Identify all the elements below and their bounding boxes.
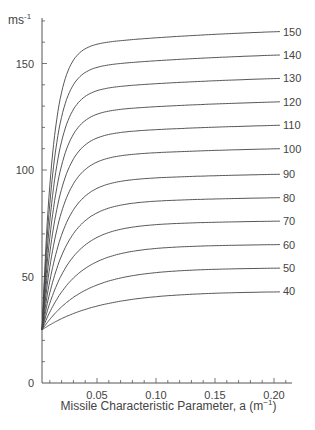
curve-label-60: 60 [283, 239, 295, 251]
curve-label-120: 120 [283, 96, 301, 108]
y-tick-label: 150 [16, 58, 34, 70]
curve-50 [42, 268, 280, 330]
curve-label-40: 40 [283, 285, 295, 297]
x-axis-title: Missile Characteristic Parameter, a (m−1… [0, 398, 315, 413]
curve-80 [42, 198, 280, 330]
curve-label-110: 110 [283, 119, 301, 131]
curve-label-80: 80 [283, 192, 295, 204]
curve-label-50: 50 [283, 262, 295, 274]
curve-120 [42, 102, 280, 330]
curve-label-70: 70 [283, 215, 295, 227]
curve-60 [42, 245, 280, 330]
curve-label-100: 100 [283, 143, 301, 155]
y-tick-label: 100 [16, 164, 34, 176]
curve-150 [42, 32, 280, 330]
velocity-chart: 0501001500.050.100.150.20 15014013012011… [0, 0, 315, 430]
curve-label-130: 130 [283, 72, 301, 84]
y-tick-label: 0 [28, 377, 34, 389]
curve-label-90: 90 [283, 168, 295, 180]
curve-140 [42, 55, 280, 330]
curve-100 [42, 149, 280, 330]
curve-label-140: 140 [283, 49, 301, 61]
curve-40 [42, 292, 280, 330]
curve-labels: 150140130120110100908070605040 [283, 26, 301, 298]
y-tick-label: 50 [22, 271, 34, 283]
curves [42, 32, 280, 330]
curve-70 [42, 221, 280, 330]
curve-label-150: 150 [283, 26, 301, 38]
